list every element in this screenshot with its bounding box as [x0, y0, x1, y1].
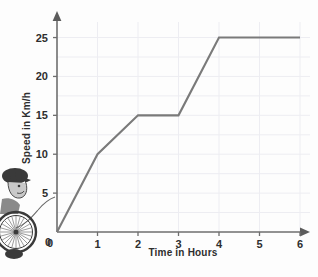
chart-canvas: 0123456 0510152025 Time in Hours Speed i… — [0, 0, 318, 277]
y-tick-label: 25 — [36, 32, 48, 44]
y-tick-label: 0 — [45, 236, 51, 248]
y-axis-arrow-icon — [53, 11, 62, 21]
line-chart: 0123456 0510152025 Time in Hours Speed i… — [0, 0, 318, 277]
y-tick-label: 10 — [36, 148, 48, 160]
x-tick-label: 6 — [297, 238, 303, 250]
y-axis-tick-labels: 0510152025 — [36, 32, 51, 248]
wheel-spoke — [5, 234, 15, 244]
y-tick-label: 15 — [36, 109, 48, 121]
grid-vertical-lines — [98, 22, 301, 232]
wheel-spoke — [5, 221, 15, 231]
wheel-spoke — [18, 234, 28, 244]
x-tick-label: 2 — [135, 238, 141, 250]
axis-group — [53, 11, 310, 236]
y-tick-label: 5 — [42, 187, 48, 199]
grid-horizontal-lines — [57, 38, 310, 213]
x-tick-label: 5 — [256, 238, 262, 250]
helmet-brim — [25, 178, 31, 183]
x-tick-label: 1 — [94, 238, 100, 250]
x-axis-title: Time in Hours — [148, 247, 217, 258]
y-tick-label: 20 — [36, 70, 48, 82]
eye-icon — [18, 185, 21, 188]
wheel-spoke — [18, 221, 28, 231]
y-axis-title: Speed in Km/h — [21, 92, 32, 164]
x-axis-arrow-icon — [300, 228, 310, 237]
shoe-icon — [5, 249, 23, 259]
